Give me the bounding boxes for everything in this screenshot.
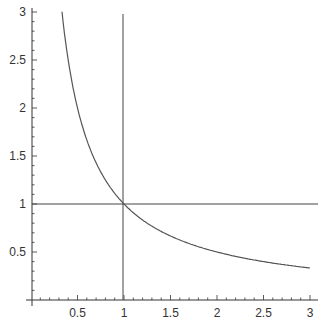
y-tick-label: 2 [19,101,26,115]
x-tick-label: 3 [307,306,314,320]
y-tick-label: 2.5 [9,53,26,67]
y-tick-label: 3 [19,5,26,19]
y-tick-label: 1.5 [9,149,26,163]
axes: 0.511.522.530.511.522.53 [9,5,318,320]
y-tick-label: 1 [19,197,26,211]
x-tick-label: 2 [214,306,221,320]
reference-lines [32,14,318,300]
chart-plot: 0.511.522.530.511.522.53 [0,0,325,324]
x-tick-label: 1.5 [162,306,179,320]
x-tick-label: 2.5 [255,306,272,320]
series-line [62,12,310,268]
x-tick-label: 1 [121,306,128,320]
x-tick-label: 0.5 [69,306,86,320]
y-tick-label: 0.5 [9,245,26,259]
